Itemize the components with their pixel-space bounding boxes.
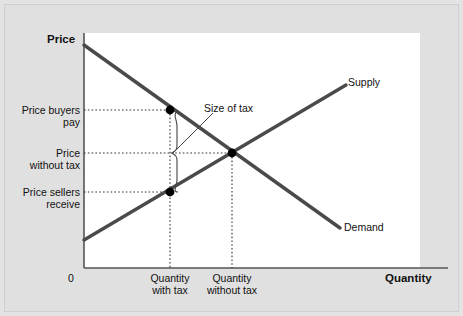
supply-curve-label: Supply <box>348 76 380 88</box>
origin-label: 0 <box>68 272 74 284</box>
x-axis-title: Quantity <box>385 272 432 284</box>
y-label-price-buyers-pay-line2: pay <box>0 116 80 128</box>
y-label-price-without-tax-line2: without tax <box>0 159 80 171</box>
demand-curve-label: Demand <box>344 221 384 233</box>
y-label-price-sellers-receive-line1: Price sellers <box>0 186 80 198</box>
x-label-quantity-without-tax-line2: without tax <box>182 284 282 296</box>
y-label-price-sellers-receive-line2: receive <box>0 198 80 210</box>
y-label-price-buyers-pay-line1: Price buyers <box>0 104 80 116</box>
y-label-price-sellers-receive: Price sellers receive <box>0 186 80 210</box>
x-label-quantity-without-tax: Quantity without tax <box>182 272 282 296</box>
figure-container: Price Quantity 0 Price buyers pay Price … <box>0 0 463 316</box>
y-label-price-without-tax: Price without tax <box>0 147 80 171</box>
y-label-price-buyers-pay: Price buyers pay <box>0 104 80 128</box>
sellers-price-point <box>166 188 175 197</box>
y-axis-title: Price <box>47 33 75 45</box>
buyers-price-point <box>166 106 175 115</box>
y-label-price-without-tax-line1: Price <box>0 147 80 159</box>
equilibrium-point <box>228 149 237 158</box>
demand-curve <box>84 45 340 228</box>
size-of-tax-label: Size of tax <box>204 102 253 114</box>
x-label-quantity-without-tax-line1: Quantity <box>182 272 282 284</box>
